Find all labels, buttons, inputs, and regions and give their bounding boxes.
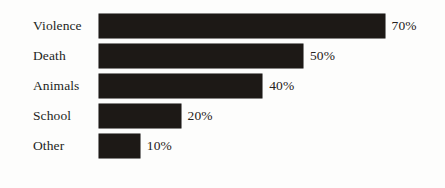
bar-track-death: 50% [99, 44, 335, 68]
chart-row: Other 10% [0, 134, 445, 158]
category-label-school: School [33, 109, 71, 123]
bar-chart-figure: Violence 70% Death 50% Animals 40% Schoo… [0, 0, 445, 188]
bar-chart-plot-area: Violence 70% Death 50% Animals 40% Schoo… [0, 14, 445, 164]
bar-other [99, 134, 140, 158]
bar-track-school: 20% [99, 104, 213, 128]
bar-track-violence: 70% [99, 14, 417, 38]
value-label-death: 50% [310, 49, 335, 63]
category-label-other: Other [33, 139, 64, 153]
bar-school [99, 104, 181, 128]
chart-row: Violence 70% [0, 14, 445, 38]
bar-track-animals: 40% [99, 74, 294, 98]
bar-track-other: 10% [99, 134, 172, 158]
value-label-violence: 70% [392, 19, 417, 33]
chart-row: Death 50% [0, 44, 445, 68]
value-label-school: 20% [188, 109, 213, 123]
bar-animals [99, 74, 262, 98]
value-label-other: 10% [147, 139, 172, 153]
category-label-violence: Violence [33, 19, 82, 33]
bar-death [99, 44, 303, 68]
category-label-animals: Animals [33, 79, 79, 93]
value-label-animals: 40% [269, 79, 294, 93]
chart-row: Animals 40% [0, 74, 445, 98]
bar-violence [99, 14, 385, 38]
chart-row: School 20% [0, 104, 445, 128]
category-label-death: Death [33, 49, 66, 63]
